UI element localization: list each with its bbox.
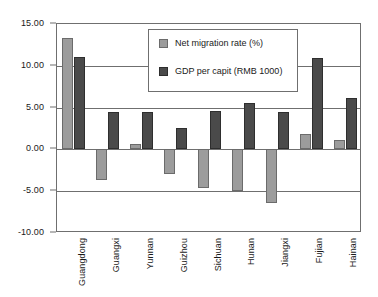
x-axis-category-label: Sichuan — [213, 238, 223, 271]
x-axis-category-label: Guangdong — [77, 238, 87, 286]
x-axis-category-label: Hainan — [348, 238, 358, 267]
legend-swatch-icon-series-0 — [159, 39, 168, 48]
x-axis-category-label: Guangxi — [111, 238, 121, 272]
legend-label-series-0: Net migration rate (%) — [175, 38, 263, 48]
bar-chart: 15.0010.005.000.00-5.00-10.00 GuangdongG… — [0, 0, 378, 297]
x-axis-category-label: Hunan — [246, 238, 256, 265]
x-axis-category-label: Guizhou — [179, 238, 189, 272]
legend-swatch-icon-series-1 — [159, 67, 168, 76]
legend: Net migration rate (%) GDP per capit (RM… — [148, 29, 298, 92]
legend-item-net-migration-rate: Net migration rate (%) — [159, 38, 263, 48]
legend-item-gdp-per-capita: GDP per capit (RMB 1000) — [159, 66, 282, 76]
x-axis-category-label: Jiangxi — [280, 238, 290, 267]
legend-label-series-1: GDP per capit (RMB 1000) — [175, 66, 282, 76]
x-axis-category-label: Yunnan — [145, 238, 155, 269]
x-axis-category-label: Fujian — [314, 238, 324, 263]
